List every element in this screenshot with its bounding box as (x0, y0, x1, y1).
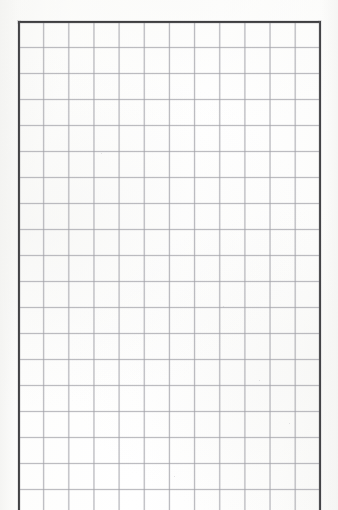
grid-area (18, 21, 320, 510)
top-border-rule (18, 21, 320, 23)
scanned-grid-paper-page (0, 0, 338, 510)
right-margin (321, 0, 338, 510)
left-margin (0, 0, 18, 510)
grid-lines (18, 21, 320, 510)
top-margin (0, 0, 338, 21)
left-border-rule (18, 21, 20, 510)
